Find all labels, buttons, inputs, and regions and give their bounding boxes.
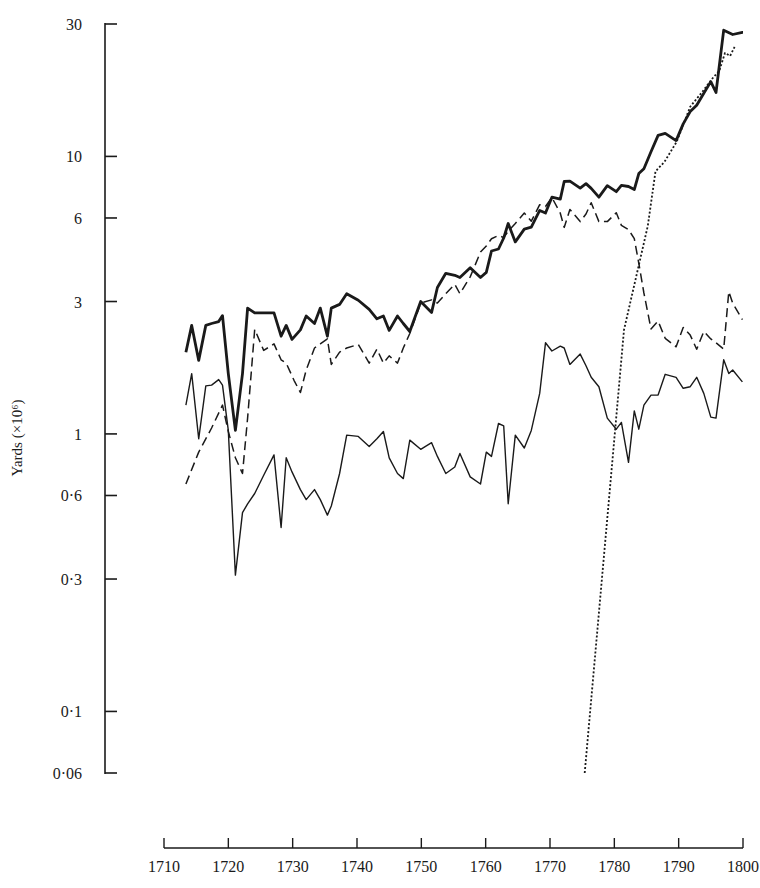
y-tick-label: 6: [74, 210, 82, 227]
y-tick-label: 0·1: [61, 703, 82, 720]
x-tick-label: 1710: [148, 858, 180, 875]
x-tick-label: 1790: [663, 858, 695, 875]
y-axis-title: Yards (×10⁶): [9, 400, 26, 477]
x-tick-label: 1760: [470, 858, 502, 875]
y-tick-label: 30: [66, 16, 82, 33]
x-tick-label: 1750: [405, 858, 437, 875]
series-line-thick-solid: [186, 30, 743, 430]
series-line-thin-solid: [186, 343, 743, 575]
x-tick-label: 1720: [212, 858, 244, 875]
y-tick-label: 0·06: [53, 765, 82, 782]
x-tick-label: 1800: [727, 858, 759, 875]
x-axis-ticks: 1710172017301740175017601770178017901800: [148, 838, 759, 875]
y-axis: 30106310·60·30·10·06 Yards (×10⁶): [9, 16, 117, 782]
x-tick-label: 1770: [534, 858, 566, 875]
x-tick-label: 1730: [277, 858, 309, 875]
series-line-dashed: [186, 198, 743, 485]
y-tick-label: 0·3: [61, 571, 82, 588]
x-tick-label: 1740: [341, 858, 373, 875]
y-tick-label: 0·6: [61, 487, 82, 504]
line-chart: 30106310·60·30·10·06 Yards (×10⁶) 171017…: [0, 0, 760, 888]
y-tick-label: 10: [66, 148, 82, 165]
plot-area: [186, 30, 743, 773]
y-tick-label: 1: [74, 426, 82, 443]
series-line-dotted: [585, 47, 735, 773]
x-axis: 1710172017301740175017601770178017901800: [148, 838, 759, 875]
x-tick-label: 1780: [598, 858, 630, 875]
y-axis-ticks: 30106310·60·30·10·06: [53, 16, 117, 782]
y-tick-label: 3: [74, 294, 82, 311]
